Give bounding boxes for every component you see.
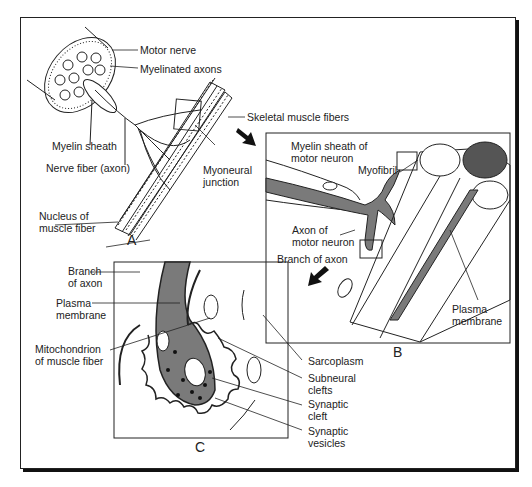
label-plasma-membrane-c: Plasma membrane	[56, 297, 106, 321]
label-branch-of-axon-b: Branch of axon	[277, 253, 348, 265]
arrow-a-to-b	[236, 128, 256, 146]
label-branch-of-axon-c: Branch of axon	[68, 265, 102, 289]
label-plasma-membrane-b: Plasma membrane	[452, 303, 502, 327]
label-subneural-clefts: Subneural clefts	[308, 372, 356, 396]
arrow-b-to-c	[308, 266, 329, 286]
panel-c-artwork	[119, 262, 261, 430]
panel-letter-c: C	[195, 439, 205, 455]
skeletal-muscle-fibers	[115, 78, 232, 240]
label-myelin-sheath: Myelin sheath	[52, 140, 117, 152]
label-axon-of-motor-neuron: Axon of motor neuron	[292, 224, 354, 248]
panel-letter-a: A	[127, 232, 136, 248]
label-nucleus-of-muscle-fiber: Nucleus of muscle fiber	[39, 210, 96, 234]
label-myoneural-junction: Myoneural junction	[203, 164, 252, 188]
label-synaptic-cleft: Synaptic cleft	[308, 398, 348, 422]
label-myelinated-axons: Myelinated axons	[140, 63, 222, 75]
label-myelin-sheath-of-motor-neuron: Myelin sheath of motor neuron	[291, 140, 367, 164]
label-myofibril: Myofibril	[358, 164, 397, 176]
label-motor-nerve: Motor nerve	[140, 44, 196, 56]
label-synaptic-vesicles: Synaptic vesicles	[308, 425, 348, 449]
label-nerve-fiber-axon: Nerve fiber (axon)	[46, 162, 130, 174]
panel-letter-b: B	[393, 344, 402, 360]
label-sarcoplasm: Sarcoplasm	[308, 355, 363, 367]
diagram-artwork	[0, 0, 532, 487]
label-mitochondrion: Mitochondrion of muscle fiber	[35, 343, 103, 367]
label-skeletal-muscle-fibers: Skeletal muscle fibers	[247, 111, 349, 123]
